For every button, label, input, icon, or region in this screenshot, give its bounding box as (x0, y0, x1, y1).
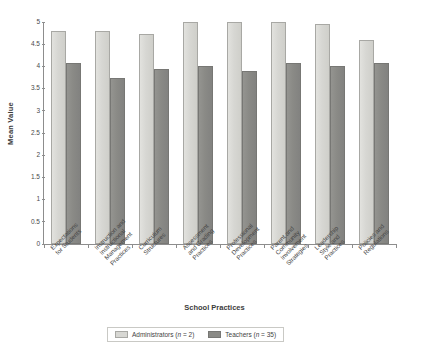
bar (95, 31, 110, 244)
y-axis-tick-label: 0.5 (31, 218, 42, 225)
y-axis-tick-label: 2 (36, 151, 42, 158)
x-axis-tick-mark (396, 244, 397, 248)
y-axis-tick-label: 5 (36, 18, 42, 25)
y-axis-tick-label: 0 (36, 240, 42, 247)
bar-group (352, 22, 396, 244)
y-axis-tick-label: 2.5 (31, 129, 42, 136)
bar (227, 22, 242, 244)
bar-group (88, 22, 132, 244)
y-axis-title: Mean Value (0, 0, 20, 246)
legend-label: Administrators (n = 2) (132, 331, 194, 338)
legend-entry: Teachers (n = 35) (208, 331, 276, 338)
bar (359, 40, 374, 244)
bar (139, 34, 154, 244)
y-axis-tick-label: 4.5 (31, 40, 42, 47)
x-axis-labels: Expectations for StudentsInstruction and… (44, 246, 396, 306)
bar-group (44, 22, 88, 244)
bar (315, 24, 330, 244)
y-axis-tick-label: 1 (36, 196, 42, 203)
y-axis-tick-label: 3 (36, 107, 42, 114)
bar-group (264, 22, 308, 244)
y-axis-tick-label: 3.5 (31, 85, 42, 92)
bar-group (220, 22, 264, 244)
bar-chart: Mean Value 54.543.532.521.510.50 Expecta… (0, 0, 429, 356)
bar-group (132, 22, 176, 244)
chart-legend: Administrators (n = 2)Teachers (n = 35) (107, 327, 284, 342)
bar-group (176, 22, 220, 244)
legend-label: Teachers (n = 35) (225, 331, 276, 338)
x-axis-title: School Practices (0, 303, 429, 312)
bar (271, 22, 286, 244)
legend-swatch (208, 331, 221, 338)
y-axis-tick-label: 4 (36, 63, 42, 70)
bar (183, 22, 198, 244)
y-axis-tick-label: 1.5 (31, 174, 42, 181)
legend-swatch (115, 331, 128, 338)
bar (51, 31, 66, 244)
legend-entry: Administrators (n = 2) (115, 331, 194, 338)
y-axis-title-label: Mean Value (6, 102, 15, 145)
bar-group (308, 22, 352, 244)
bar-groups (44, 22, 396, 244)
plot-area: 54.543.532.521.510.50 (44, 22, 396, 244)
